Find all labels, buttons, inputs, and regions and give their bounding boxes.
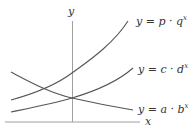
curve-p-q bbox=[11, 21, 128, 100]
y-axis-label: y bbox=[67, 5, 75, 18]
label-p-q-base: y = p · q bbox=[135, 15, 183, 28]
label-p-q-exp: x bbox=[183, 14, 187, 22]
label-c-d-base: y = c · d bbox=[137, 63, 184, 76]
label-a-b-base: y = a · b bbox=[137, 103, 185, 116]
exponential-graph: y x y = p · qx y = c · dx y = a · bx bbox=[0, 0, 193, 136]
label-c-d-exp: x bbox=[184, 62, 188, 70]
label-p-q: y = p · qx bbox=[135, 14, 187, 28]
label-c-d: y = c · dx bbox=[137, 62, 188, 76]
x-axis-label: x bbox=[145, 115, 152, 128]
label-a-b-exp: x bbox=[185, 102, 189, 110]
label-a-b: y = a · bx bbox=[137, 102, 189, 116]
